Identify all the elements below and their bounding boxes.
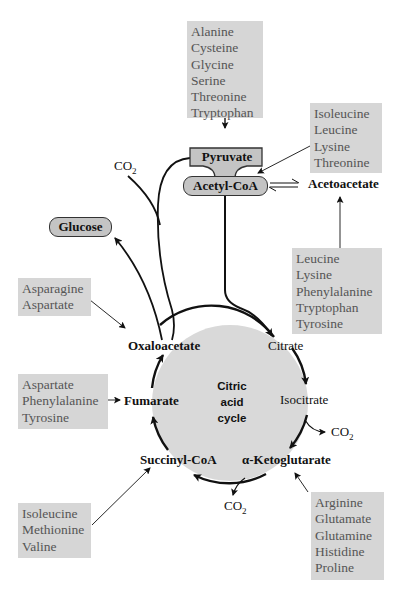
amino-acids-to-pyruvate: Alanine Cysteine Glycine Serine Threonin…	[187, 21, 263, 118]
amino-acids-to-alpha-ketoglutarate: Arginine Glutamate Glutamine Histidine P…	[311, 492, 384, 580]
co2-pyruvate: CO2	[114, 158, 137, 176]
citric-acid-cycle-diagram: Pyruvate Acetyl-CoA Glucose Acetoacetate…	[0, 0, 411, 591]
co2-alpha-ketoglutarate: CO2	[224, 498, 247, 516]
succinyl-coa-label: Succinyl-CoA	[140, 452, 217, 468]
glucose-node: Glucose	[49, 217, 112, 237]
acetyl-coa-node: Acetyl-CoA	[183, 176, 268, 196]
amino-acids-to-acetoacetate: Leucine Lysine Phenylalanine Tryptophan …	[292, 248, 382, 334]
amino-acids-to-succinyl-coa: Isoleucine Methionine Valine	[18, 503, 91, 558]
citrate-label: Citrate	[268, 338, 303, 354]
oxaloacetate-label: Oxaloacetate	[128, 338, 200, 354]
amino-acids-to-acetyl-coa: Isoleucine Leucine Lysine Threonine	[310, 103, 382, 173]
amino-acids-to-fumarate: Aspartate Phenylalanine Tyrosine	[18, 374, 108, 429]
isocitrate-label: Isocitrate	[280, 392, 328, 408]
amino-acids-to-oxaloacetate: Asparagine Aspartate	[18, 278, 91, 316]
alpha-ketoglutarate-label: α-Ketoglutarate	[242, 452, 331, 468]
cycle-center-label: Citric acid cycle	[200, 378, 264, 426]
fumarate-label: Fumarate	[124, 393, 179, 409]
acetoacetate-label: Acetoacetate	[308, 176, 379, 192]
pyruvate-label: Pyruvate	[196, 148, 258, 166]
co2-isocitrate: CO2	[331, 424, 354, 442]
